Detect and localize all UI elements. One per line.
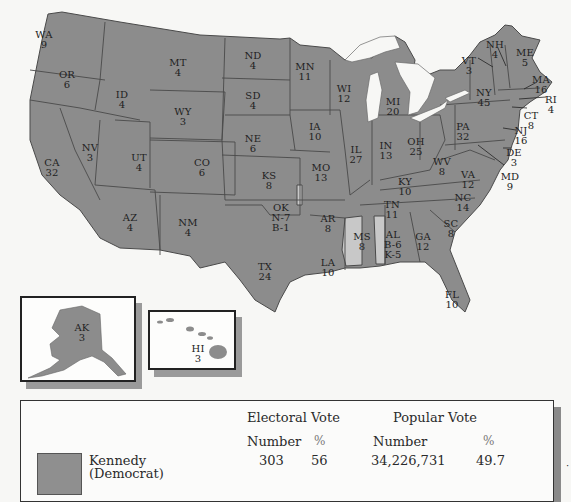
state-label-ri: RI4 (545, 95, 557, 115)
state-label-in: IN13 (379, 141, 392, 161)
state-label-sd: SD4 (245, 91, 260, 111)
state-electoral-votes: 3 (82, 153, 98, 163)
state-electoral-votes: 4 (178, 228, 197, 238)
state-electoral-votes: 8 (433, 167, 451, 177)
state-electoral-votes: 4 (131, 163, 147, 173)
state-label-tn: TN11 (384, 200, 400, 220)
state-label-pa: PA32 (456, 122, 469, 142)
state-label-mo: MO13 (312, 163, 331, 183)
state-label-nv: NV3 (82, 143, 98, 163)
ev-pct-col-header: % (314, 434, 325, 448)
state-electoral-votes: 6 (245, 144, 261, 154)
state-electoral-votes: 6 (194, 168, 210, 178)
state-electoral-votes: N-7 B-1 (271, 213, 290, 233)
state-electoral-votes: 12 (337, 94, 352, 104)
state-electoral-votes: 8 (444, 229, 459, 239)
state-electoral-votes: 8 (262, 181, 277, 191)
state-label-de: DE3 (506, 148, 522, 168)
state-electoral-votes: 9 (35, 40, 52, 50)
state-label-wy: WY3 (174, 107, 191, 127)
state-label-la: LA10 (321, 258, 335, 278)
state-electoral-votes: 13 (379, 151, 392, 161)
state-electoral-votes: 32 (456, 132, 469, 142)
state-label-fl: FL10 (445, 290, 459, 310)
state-label-ne: NE6 (245, 134, 261, 154)
state-electoral-votes: 10 (445, 300, 459, 310)
state-electoral-votes: 6 (59, 80, 75, 90)
state-label-ny: NY45 (476, 88, 492, 108)
state-electoral-votes: 27 (349, 155, 362, 165)
pv-pct-col-header: % (483, 434, 494, 448)
state-electoral-votes: 4 (545, 105, 557, 115)
state-label-hi: HI3 (191, 344, 204, 364)
state-electoral-votes: 4 (123, 223, 138, 233)
pv-pct: 49.7 (476, 453, 505, 468)
state-label-nm: NM4 (178, 218, 197, 238)
state-label-ks: KS8 (262, 171, 277, 191)
state-label-mt: MT4 (169, 58, 186, 78)
legend-table: Electoral Vote Popular Vote Number % Num… (20, 400, 554, 502)
state-electoral-votes: B-6 K-5 (384, 240, 402, 260)
state-label-tx: TX24 (258, 262, 272, 282)
pv-number: 34,226,731 (371, 453, 445, 468)
state-label-ar: AR8 (320, 214, 335, 234)
state-electoral-votes: 3 (174, 117, 191, 127)
kennedy-color-swatch (37, 453, 82, 495)
state-electoral-votes: 16 (514, 136, 527, 146)
state-label-nj: NJ16 (514, 126, 527, 146)
margin-dot: · (566, 460, 569, 471)
candidate-party: (Democrat) (89, 466, 164, 481)
state-label-oh: OH25 (407, 137, 424, 157)
state-label-wv: WV8 (433, 157, 451, 177)
state-electoral-votes: 10 (321, 268, 335, 278)
state-label-me: ME5 (516, 48, 534, 68)
state-label-sc: SC8 (444, 219, 459, 239)
state-electoral-votes: 8 (320, 224, 335, 234)
ev-pct: 56 (311, 453, 328, 468)
state-label-nh: NH4 (486, 40, 504, 60)
state-label-id: ID4 (116, 90, 128, 110)
state-label-ak: AK3 (74, 323, 89, 343)
popular-vote-header: Popular Vote (393, 410, 477, 425)
state-label-wa: WA9 (35, 30, 52, 50)
state-electoral-votes: 32 (44, 168, 59, 178)
state-electoral-votes: 3 (74, 333, 89, 343)
state-electoral-votes: 12 (461, 180, 475, 190)
state-electoral-votes: 4 (486, 50, 504, 60)
state-label-mi: MI20 (386, 97, 401, 117)
state-label-vt: VT3 (462, 56, 476, 76)
state-electoral-votes: 11 (295, 72, 314, 82)
state-label-or: OR6 (59, 70, 75, 90)
state-label-ia: IA10 (308, 122, 321, 142)
ev-number-col-header: Number (247, 434, 301, 449)
state-label-ut: UT4 (131, 153, 147, 173)
state-electoral-votes: 8 (353, 242, 371, 252)
ev-number: 303 (259, 453, 284, 468)
state-electoral-votes: 9 (501, 182, 520, 192)
state-label-il: IL27 (349, 145, 362, 165)
state-electoral-votes: 4 (245, 101, 260, 111)
state-electoral-votes: 12 (415, 242, 431, 252)
state-electoral-votes: 24 (258, 272, 272, 282)
state-label-nc: NC14 (455, 193, 472, 213)
state-electoral-votes: 25 (407, 147, 424, 157)
state-electoral-votes: 20 (386, 107, 401, 117)
state-electoral-votes: 11 (384, 210, 400, 220)
state-electoral-votes: 5 (516, 58, 534, 68)
state-label-al: ALB-6 K-5 (384, 230, 402, 260)
state-label-nd: ND4 (244, 51, 261, 71)
state-label-az: AZ4 (123, 213, 138, 233)
state-label-md: MD9 (501, 172, 520, 192)
state-electoral-votes: 4 (116, 100, 128, 110)
electoral-vote-header: Electoral Vote (247, 410, 340, 425)
state-electoral-votes: 3 (191, 354, 204, 364)
state-label-va: VA12 (461, 170, 475, 190)
pv-number-col-header: Number (373, 434, 427, 449)
state-electoral-votes: 45 (476, 98, 492, 108)
state-electoral-votes: 10 (308, 132, 321, 142)
state-electoral-votes: 14 (455, 203, 472, 213)
state-electoral-votes: 10 (398, 187, 412, 197)
state-ok-partial (297, 185, 302, 205)
state-electoral-votes: 4 (169, 68, 186, 78)
state-label-mn: MN11 (295, 62, 314, 82)
